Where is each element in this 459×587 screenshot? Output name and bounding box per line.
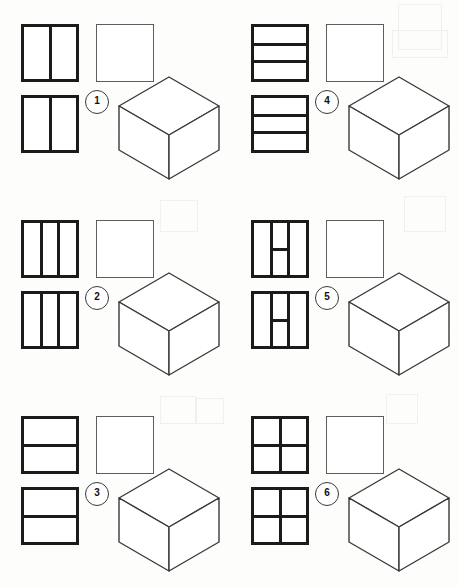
item-number-badge: 4 — [315, 90, 339, 114]
pattern-vertical-line — [57, 291, 60, 349]
blank-answer-square[interactable] — [96, 416, 154, 474]
blank-answer-square[interactable] — [326, 220, 384, 278]
pattern-vertical-line — [49, 95, 52, 153]
isometric-cube-icon — [348, 272, 450, 376]
puzzle-item-3: 3 — [0, 392, 229, 587]
pattern-horizontal-segment — [270, 248, 290, 251]
item-number-badge: 1 — [85, 90, 109, 114]
puzzle-item-2: 2 — [0, 196, 229, 392]
pattern-square-lower[interactable] — [21, 291, 79, 349]
blank-answer-square[interactable] — [96, 24, 154, 82]
pattern-square-lower[interactable] — [251, 95, 309, 153]
pattern-square-lower[interactable] — [21, 487, 79, 545]
pattern-square-upper[interactable] — [21, 220, 79, 278]
pattern-horizontal-line — [21, 444, 79, 447]
pattern-horizontal-line — [251, 43, 309, 46]
pattern-vertical-line — [49, 24, 52, 82]
pattern-square-lower[interactable] — [21, 95, 79, 153]
blank-answer-square[interactable] — [326, 416, 384, 474]
pattern-horizontal-line — [251, 131, 309, 134]
puzzle-item-6: 6 — [230, 392, 459, 587]
pattern-horizontal-line — [21, 515, 79, 518]
item-number-badge: 6 — [315, 482, 339, 506]
isometric-cube-icon — [348, 76, 450, 180]
puzzle-item-1: 1 — [0, 0, 229, 196]
puzzle-item-4: 4 — [230, 0, 459, 196]
isometric-cube-icon — [118, 76, 220, 180]
item-number-badge: 3 — [85, 482, 109, 506]
pattern-square-lower[interactable] — [251, 487, 309, 545]
isometric-cube-icon — [348, 468, 450, 572]
pattern-vertical-line — [40, 220, 43, 278]
pattern-horizontal-line — [251, 60, 309, 63]
puzzle-sheet: 123456 — [0, 0, 459, 587]
pattern-horizontal-segment — [270, 319, 290, 322]
pattern-vertical-line — [57, 220, 60, 278]
pattern-horizontal-line — [251, 114, 309, 117]
pattern-square-upper[interactable] — [251, 24, 309, 82]
isometric-cube-icon — [118, 272, 220, 376]
blank-answer-square[interactable] — [96, 220, 154, 278]
pattern-horizontal-line — [251, 515, 309, 518]
blank-answer-square[interactable] — [326, 24, 384, 82]
pattern-vertical-line — [40, 291, 43, 349]
puzzle-item-5: 5 — [230, 196, 459, 392]
pattern-square-upper[interactable] — [251, 416, 309, 474]
pattern-horizontal-line — [251, 444, 309, 447]
pattern-square-upper[interactable] — [251, 220, 309, 278]
pattern-square-lower[interactable] — [251, 291, 309, 349]
isometric-cube-icon — [118, 468, 220, 572]
item-number-badge: 5 — [315, 286, 339, 310]
pattern-square-upper[interactable] — [21, 24, 79, 82]
item-number-badge: 2 — [85, 286, 109, 310]
pattern-square-upper[interactable] — [21, 416, 79, 474]
